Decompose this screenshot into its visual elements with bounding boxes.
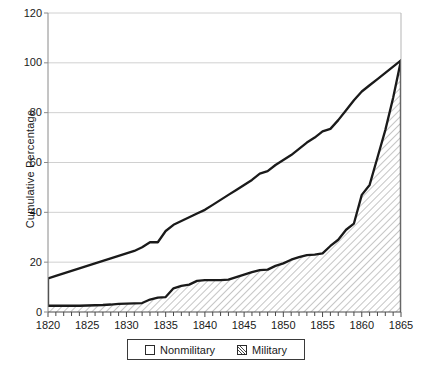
x-axis-minor-ticks xyxy=(48,312,401,317)
x-tick-label: 1840 xyxy=(193,320,217,331)
x-tick-label: 1820 xyxy=(36,320,60,331)
x-tick-label: 1835 xyxy=(153,320,177,331)
axis-major-ticks xyxy=(44,13,48,312)
x-tick-label: 1850 xyxy=(271,320,295,331)
chart-legend: Nonmilitary Military xyxy=(127,339,305,360)
x-tick-label: 1860 xyxy=(350,320,374,331)
x-tick-label: 1865 xyxy=(389,320,413,331)
x-tick-label: 1855 xyxy=(310,320,334,331)
legend-item-military[interactable]: Military xyxy=(237,344,287,356)
x-tick-label: 1830 xyxy=(114,320,138,331)
legend-label-nonmilitary: Nonmilitary xyxy=(160,344,215,356)
x-tick-label: 1825 xyxy=(75,320,99,331)
plot-area xyxy=(0,0,423,366)
legend-swatch-military xyxy=(237,345,247,355)
x-tick-label: 1845 xyxy=(232,320,256,331)
legend-item-nonmilitary[interactable]: Nonmilitary xyxy=(145,344,215,356)
chart-container: Cumulative Percentage 020406080100120 xyxy=(0,0,423,366)
legend-swatch-nonmilitary xyxy=(145,345,155,355)
legend-label-military: Military xyxy=(252,344,287,356)
